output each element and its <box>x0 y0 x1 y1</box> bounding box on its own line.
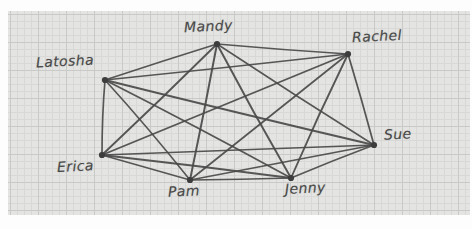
graph-edge <box>190 54 348 180</box>
graph-edge <box>217 44 348 54</box>
graph-edge <box>105 54 348 80</box>
edge-layer <box>102 44 374 180</box>
graph-node-mandy[interactable] <box>214 41 220 47</box>
node-label-latosha: Latosha <box>36 51 95 70</box>
graph-node-latosha[interactable] <box>102 77 108 83</box>
node-label-sue: Sue <box>384 125 412 142</box>
diagram-canvas: LatoshaMandyRachelSueJennyPamErica <box>0 0 472 229</box>
graph-edge <box>105 80 374 145</box>
graph-edge <box>102 155 190 180</box>
graph-edge <box>190 178 291 180</box>
node-label-pam: Pam <box>168 182 201 200</box>
node-label-erica: Erica <box>57 157 95 175</box>
graph-node-rachel[interactable] <box>345 51 351 57</box>
graph-node-sue[interactable] <box>371 142 377 148</box>
node-label-mandy: Mandy <box>184 17 233 36</box>
graph-edge <box>105 80 190 180</box>
graph-edge <box>190 44 217 180</box>
graph-node-erica[interactable] <box>99 152 105 158</box>
graph-edge <box>102 44 217 155</box>
node-label-rachel: Rachel <box>352 27 403 46</box>
graph-edge <box>102 80 105 155</box>
node-label-jenny: Jenny <box>285 179 327 197</box>
